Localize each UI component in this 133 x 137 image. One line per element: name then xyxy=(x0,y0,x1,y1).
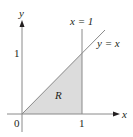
x-tick-label: 1 xyxy=(79,117,85,129)
region-label: R xyxy=(54,89,62,101)
x-axis-label: x xyxy=(121,108,127,120)
x-axis-arrow-icon xyxy=(113,112,120,117)
y-axis-label: y xyxy=(18,7,24,19)
origin-label: 0 xyxy=(14,117,20,129)
y-tick-label: 1 xyxy=(14,47,20,59)
region-diagram: y x 0 1 1 x = 1 y = x R xyxy=(0,0,133,137)
vertical-line-label: x = 1 xyxy=(69,15,93,27)
diagonal-line-label: y = x xyxy=(96,37,120,49)
y-axis-arrow-icon xyxy=(20,20,25,27)
